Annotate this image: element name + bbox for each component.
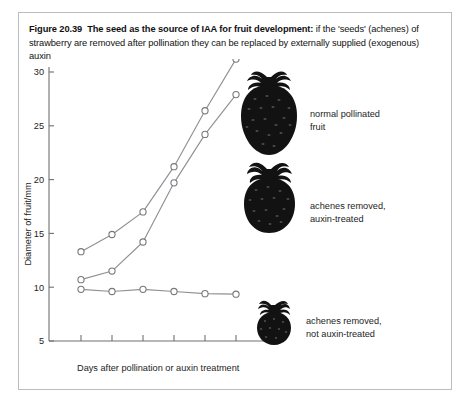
series-annotation-label: fruit — [310, 122, 326, 132]
figure-frame: Figure 20.39 The seed as the source of I… — [18, 12, 452, 390]
data-point-marker — [202, 108, 208, 114]
chart-plot-area: 51015202530 Diameter of fruit/mm Days af… — [19, 59, 453, 389]
data-point-marker — [233, 59, 239, 62]
series-annotation-label: achenes removed, — [310, 201, 386, 211]
series-annotation-label: not auxin-treated — [306, 329, 375, 339]
x-axis-ticks — [81, 335, 236, 341]
x-axis-title: Days after pollination or auxin treatmen… — [77, 363, 240, 373]
strawberry-small-icon — [257, 301, 291, 345]
data-point-marker — [78, 249, 84, 255]
figure-number: Figure 20.39 — [29, 24, 82, 34]
series-line — [81, 59, 236, 252]
data-point-marker — [171, 180, 177, 186]
y-axis-title: Diameter of fruit/mm — [23, 182, 33, 266]
data-series — [78, 91, 239, 282]
data-series — [78, 286, 239, 297]
figure-title-bold: The seed as the source of IAA for fruit … — [87, 24, 313, 34]
series-line — [81, 95, 236, 280]
data-point-marker — [78, 277, 84, 283]
strawberry-large-icon — [241, 72, 297, 156]
series-annotation-label: auxin-treated — [310, 214, 364, 224]
data-series-layer — [78, 59, 239, 297]
y-axis-ticks: 51015202530 — [34, 67, 54, 346]
strawberry-medium-icon — [244, 163, 295, 233]
data-point-marker — [171, 164, 177, 170]
y-axis-tick-label: 20 — [34, 175, 44, 185]
data-series — [78, 59, 239, 255]
data-point-marker — [109, 268, 115, 274]
data-point-marker — [202, 291, 208, 297]
data-point-marker — [171, 288, 177, 294]
figure-caption: Figure 20.39 The seed as the source of I… — [29, 23, 443, 64]
data-point-marker — [140, 239, 146, 245]
y-axis-tick-label: 10 — [34, 283, 44, 293]
data-point-marker — [78, 286, 84, 292]
data-point-marker — [109, 231, 115, 237]
data-point-marker — [140, 209, 146, 215]
data-point-marker — [202, 131, 208, 137]
data-point-marker — [140, 286, 146, 292]
data-point-marker — [233, 291, 239, 297]
data-point-marker — [233, 91, 239, 97]
data-point-marker — [109, 288, 115, 294]
series-annotation-label: normal pollinated — [310, 109, 380, 119]
series-annotation-label: achenes removed, — [306, 316, 382, 326]
y-axis-tick-label: 5 — [39, 336, 44, 346]
y-axis-tick-label: 15 — [34, 229, 44, 239]
series-line — [81, 289, 236, 294]
annotation-layer: normal pollinatedfruitachenes removed,au… — [306, 109, 386, 339]
y-axis-tick-label: 30 — [34, 67, 44, 77]
line-chart: 51015202530 Diameter of fruit/mm Days af… — [19, 59, 453, 389]
y-axis-tick-label: 25 — [34, 121, 44, 131]
